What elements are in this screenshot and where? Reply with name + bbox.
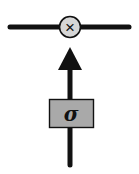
multiply-symbol: ×: [65, 18, 75, 37]
arrow-up-icon: [58, 47, 82, 70]
lstm-gate-diagram: × σ: [0, 0, 139, 174]
sigmoid-box: σ: [50, 100, 94, 128]
multiply-operator: ×: [60, 17, 81, 38]
sigmoid-label: σ: [64, 102, 79, 126]
